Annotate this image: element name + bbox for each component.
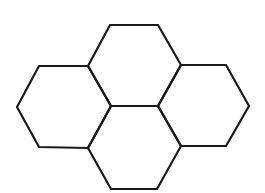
hexagon-left — [17, 66, 111, 148]
hexagon-top — [88, 25, 181, 106]
hexagon-bottom — [88, 106, 181, 189]
hexagon-right — [158, 65, 249, 146]
honeycomb-diagram — [0, 0, 265, 193]
diagram-canvas — [0, 0, 265, 193]
